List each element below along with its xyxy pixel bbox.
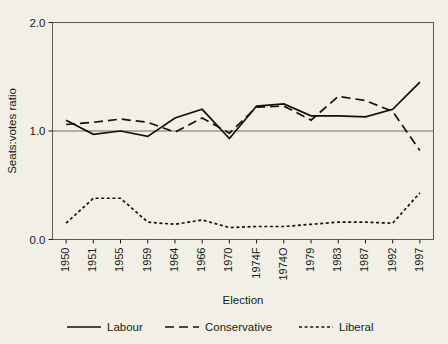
series-line-liberal	[66, 193, 420, 228]
y-tick-label: 1.0	[30, 125, 46, 137]
x-tick-label: 1950	[59, 248, 71, 272]
legend-label: Conservative	[205, 321, 272, 333]
series-line-labour	[66, 82, 420, 138]
x-tick-label: 1997	[413, 248, 425, 272]
y-tick-labels: 0.01.02.0	[30, 17, 46, 246]
data-series-group	[66, 82, 420, 227]
chart-container: 0.01.02.0 195019511955195919641966197019…	[0, 0, 448, 344]
x-tick-label: 1964	[168, 248, 180, 272]
x-tick-label: 1955	[113, 248, 125, 272]
x-tick-label: 1979	[304, 248, 316, 272]
x-tick-label: 1987	[358, 248, 370, 272]
x-tick-labels: 19501951195519591964196619701974F1974O19…	[59, 247, 425, 280]
x-tick-label: 1992	[386, 248, 398, 272]
y-axis-title: Seats:votes ratio	[6, 88, 18, 174]
x-tick-label: 1974O	[277, 247, 289, 280]
y-tick-label: 0.0	[30, 234, 46, 246]
x-tick-marks	[66, 240, 420, 244]
y-tick-marks	[49, 23, 53, 240]
legend-label: Labour	[107, 321, 143, 333]
x-tick-label: 1983	[331, 248, 343, 272]
y-tick-label: 2.0	[30, 17, 46, 29]
x-tick-label: 1951	[86, 248, 98, 272]
legend-item-liberal[interactable]: Liberal	[299, 321, 374, 333]
x-tick-label: 1966	[195, 248, 207, 272]
x-tick-label: 1959	[141, 248, 153, 272]
chart-legend: LabourConservativeLiberal	[67, 321, 374, 333]
legend-item-labour[interactable]: Labour	[67, 321, 143, 333]
x-axis-title: Election	[223, 294, 264, 306]
x-tick-label: 1974F	[250, 247, 262, 278]
x-tick-label: 1970	[222, 248, 234, 272]
legend-item-conservative[interactable]: Conservative	[165, 321, 272, 333]
legend-label: Liberal	[339, 321, 374, 333]
line-chart: 0.01.02.0 195019511955195919641966197019…	[0, 0, 448, 344]
